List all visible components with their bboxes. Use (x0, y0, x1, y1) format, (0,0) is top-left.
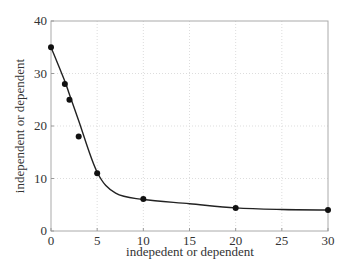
chart: 051015202530 010203040 indepedent or dep… (0, 0, 351, 275)
x-tick-label: 5 (94, 233, 101, 248)
y-tick-label: 10 (34, 171, 47, 186)
y-tick-label: 40 (34, 13, 47, 28)
x-tick-label: 0 (48, 233, 55, 248)
data-point (48, 44, 54, 50)
data-point (66, 97, 72, 103)
data-point (62, 81, 68, 87)
data-point (76, 134, 82, 140)
data-point (140, 196, 146, 202)
data-point (233, 205, 239, 211)
y-tick-label: 20 (34, 118, 47, 133)
y-tick-label: 0 (41, 223, 48, 238)
fit-curve (51, 47, 328, 210)
x-axis-label: indepedent or dependent (126, 244, 254, 259)
data-point (94, 170, 100, 176)
y-axis-label: independent or dependent (12, 58, 27, 193)
x-tick-label: 25 (275, 233, 288, 248)
data-point (325, 207, 331, 213)
x-tick-label: 30 (322, 233, 335, 248)
y-tick-label: 30 (34, 66, 47, 81)
grid-lines (51, 21, 328, 231)
